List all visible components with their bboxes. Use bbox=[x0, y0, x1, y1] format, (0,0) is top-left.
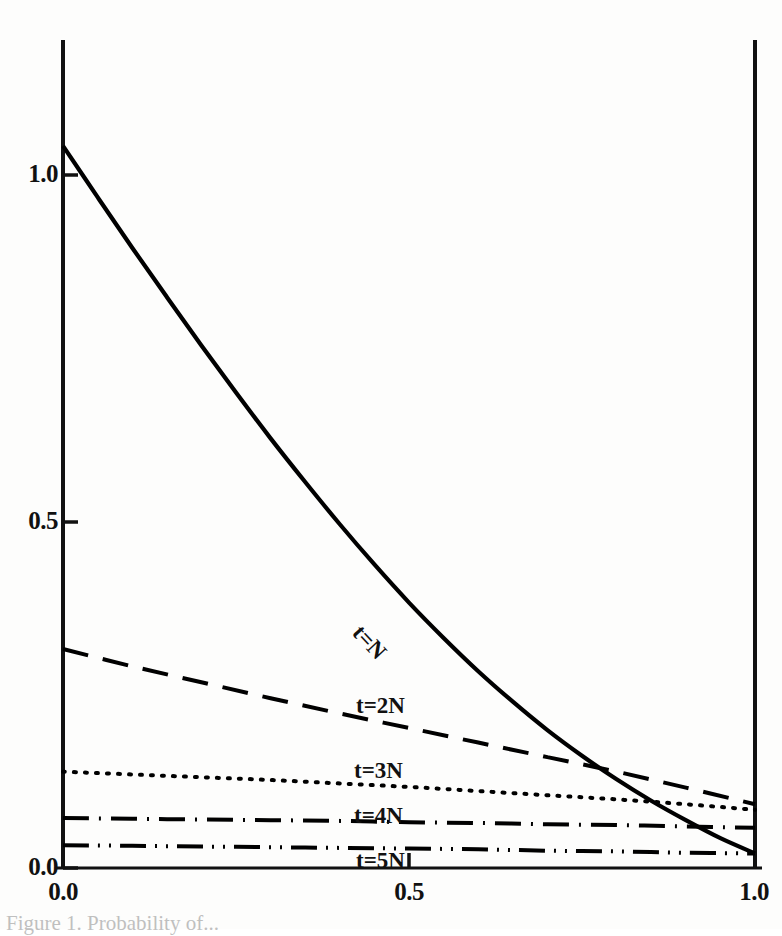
data-series-group bbox=[63, 146, 755, 854]
x-tick-label-0-5: 0.5 bbox=[369, 878, 449, 906]
x-tick-label-0-0: 0.0 bbox=[23, 878, 103, 906]
y-tick-label-1-0: 1.0 bbox=[0, 160, 58, 188]
x-tick-label-1-0: 1.0 bbox=[714, 878, 782, 906]
series-line-t-5n bbox=[63, 845, 755, 853]
series-line-t-n bbox=[63, 146, 755, 854]
axes-group bbox=[57, 40, 762, 868]
curve-label-t-2n: t=2N bbox=[356, 693, 405, 719]
tick-marks-group bbox=[63, 175, 755, 868]
y-tick-label-0-0: 0.0 bbox=[0, 853, 58, 881]
caption-partial: Figure 1. Probability of... bbox=[6, 911, 219, 936]
series-line-t-4n bbox=[63, 818, 755, 828]
y-tick-label-0-5: 0.5 bbox=[0, 507, 58, 535]
curve-label-t-4n: t=4N bbox=[354, 803, 403, 829]
curve-label-t-3n: t=3N bbox=[354, 758, 403, 784]
series-line-t-2n bbox=[63, 649, 755, 804]
curve-label-t-5n: t=5N bbox=[356, 848, 405, 874]
series-line-t-3n bbox=[63, 772, 755, 810]
